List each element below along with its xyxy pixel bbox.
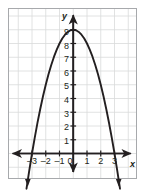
y-tick-label-6: 6: [58, 69, 69, 78]
x-tick-label-neg3: –3: [27, 157, 38, 166]
y-tick-label-2: 2: [58, 123, 69, 132]
x-tick-label-1: 1: [82, 157, 93, 166]
y-tick-label-9: 9: [58, 28, 69, 37]
curve-arrow-left: [25, 179, 31, 187]
x-tick-label-neg2: –2: [40, 157, 51, 166]
y-tick-label-1: 1: [58, 137, 69, 146]
x-tick-label-neg1: –1: [54, 157, 65, 166]
y-axis-label: y: [62, 12, 67, 21]
x-axis-label: x: [130, 160, 135, 169]
graph-figure: y x 9 8 7 6 5 4 3 2 1 –3 –2 –1 0 1 2 3: [0, 0, 145, 192]
y-tick-label-8: 8: [58, 42, 69, 51]
y-tick-label-3: 3: [58, 110, 69, 119]
y-tick-label-4: 4: [58, 96, 69, 105]
y-tick-label-5: 5: [58, 82, 69, 91]
x-tick-label-0: 0: [65, 157, 76, 166]
x-tick-label-2: 2: [95, 157, 106, 166]
x-tick-label-3: 3: [109, 157, 120, 166]
curve-arrow-right: [116, 179, 122, 187]
y-tick-label-7: 7: [58, 55, 69, 64]
